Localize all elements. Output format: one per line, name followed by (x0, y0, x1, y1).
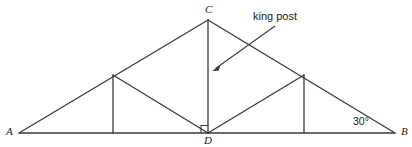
vertex-label-c: C (205, 4, 212, 15)
geometry-figure: A B C D king post 30° (0, 0, 412, 147)
left-diagonal-strut-line (113, 75, 208, 133)
king-post-annotation-label: king post (253, 11, 297, 22)
vertex-label-d: D (204, 135, 212, 146)
truss-drawing (0, 0, 412, 147)
vertex-label-a: A (6, 126, 13, 137)
king-post-arrowhead-icon (212, 65, 221, 71)
king-post-leader-line (216, 26, 276, 69)
right-diagonal-strut-line (208, 75, 304, 133)
angle-label-30-degrees: 30° (353, 116, 369, 127)
vertex-label-b: B (401, 126, 408, 137)
